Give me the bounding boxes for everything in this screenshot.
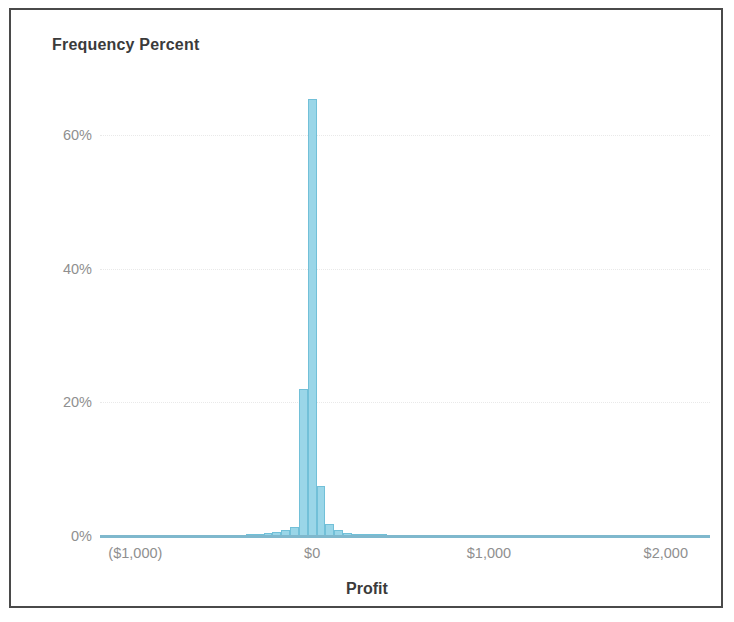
plot-area	[100, 68, 710, 536]
x-axis-tick-label: $2,000	[644, 545, 688, 561]
y-axis-tick-label: 20%	[63, 394, 92, 410]
gridline	[100, 269, 710, 271]
x-axis-tick-label: $1,000	[467, 545, 511, 561]
chart-figure: Frequency Percent 0%20%40%60% ($1,000)$0…	[0, 0, 734, 622]
histogram-bar	[308, 99, 317, 536]
chart-title: Frequency Percent	[52, 36, 199, 54]
y-axis-tick-label: 0%	[71, 528, 92, 544]
gridline	[100, 135, 710, 137]
x-axis-title: Profit	[0, 580, 734, 598]
x-axis-line	[100, 535, 710, 538]
y-axis-tick-labels: 0%20%40%60%	[0, 68, 100, 536]
x-axis-tick-label: ($1,000)	[108, 545, 162, 561]
y-axis-tick-label: 60%	[63, 127, 92, 143]
histogram-bar	[299, 389, 308, 536]
gridline	[100, 402, 710, 404]
x-axis-tick-labels: ($1,000)$0$1,000$2,000	[0, 545, 734, 571]
histogram-bar	[317, 486, 326, 536]
x-axis-tick-label: $0	[304, 545, 320, 561]
y-axis-tick-label: 40%	[63, 261, 92, 277]
